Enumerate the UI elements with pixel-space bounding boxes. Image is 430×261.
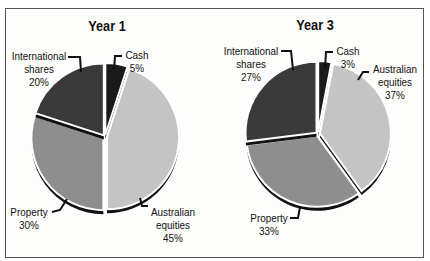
label-text: International (11, 50, 67, 63)
label-y3-aus: Australian equities 37% (372, 63, 419, 102)
label-text: Cash (124, 49, 151, 62)
label-text: Property (248, 212, 289, 225)
label-pct: 3% (335, 58, 362, 71)
label-y3-intl: International shares 27% (223, 45, 279, 84)
label-text: International (223, 45, 279, 58)
label-text: Australian (149, 206, 198, 219)
label-text: shares (11, 63, 67, 76)
label-pct: 33% (248, 225, 289, 238)
label-pct: 20% (11, 76, 67, 89)
chart-title-year-3: Year 3 (273, 16, 358, 33)
label-y3-property: Property 33% (248, 212, 289, 238)
label-y1-intl: International shares 20% (11, 50, 67, 89)
label-y1-property: Property 30% (8, 206, 49, 232)
label-text: Australian (372, 63, 419, 76)
label-pct: 37% (372, 89, 419, 102)
label-y1-aus: Australian equities 45% (149, 206, 198, 245)
label-pct: 5% (124, 62, 151, 75)
label-text: shares (223, 58, 279, 71)
label-y3-cash: Cash 3% (335, 45, 362, 71)
label-text: equities (149, 219, 198, 232)
label-pct: 45% (149, 232, 198, 245)
chart-title-year-1: Year 1 (65, 17, 150, 34)
pie-charts (0, 0, 430, 261)
label-y1-cash: Cash 5% (124, 49, 151, 75)
label-text: Property (8, 206, 49, 219)
label-pct: 30% (8, 219, 49, 232)
label-pct: 27% (223, 71, 279, 84)
label-text: equities (372, 76, 419, 89)
label-text: Cash (335, 45, 362, 58)
